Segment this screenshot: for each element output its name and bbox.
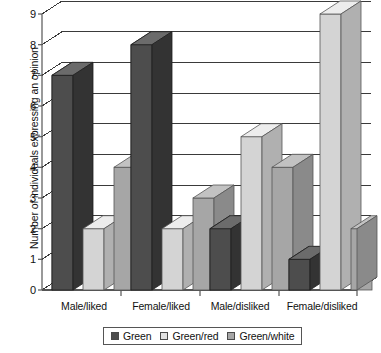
legend-swatch-green-red-icon — [160, 332, 168, 340]
x-tick-label-male-disliked: Male/disliked — [198, 300, 282, 312]
bar-female-disliked-green-white — [351, 216, 377, 290]
legend-label-green-red: Green/red — [172, 330, 218, 342]
bar-chart: Number of individuals expressing an opin… — [0, 0, 381, 353]
x-axis-ticks — [121, 290, 357, 296]
legend-swatch-green-icon — [111, 332, 119, 340]
legend-item-green-white[interactable]: Green/white — [227, 330, 294, 342]
x-tick-label-male-liked: Male/liked — [44, 300, 124, 312]
legend-swatch-green-white-icon — [227, 332, 235, 340]
legend-label-green: Green — [123, 330, 151, 342]
legend-label-green-white: Green/white — [239, 330, 294, 342]
legend: Green Green/red Green/white — [103, 327, 302, 345]
legend-item-green[interactable]: Green — [111, 330, 151, 342]
x-tick-label-female-disliked: Female/disliked — [276, 300, 368, 312]
y-axis — [38, 14, 42, 290]
x-tick-label-female-liked: Female/liked — [120, 300, 202, 312]
legend-item-green-red[interactable]: Green/red — [160, 330, 218, 342]
